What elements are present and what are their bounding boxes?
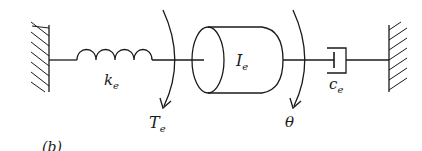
right-wall <box>389 22 407 92</box>
torsional-system-diagram: ke Ie ce Te θ (b) <box>0 0 422 151</box>
spring <box>77 50 152 61</box>
angle-label: θ <box>285 113 294 131</box>
inertia-label: Ie <box>235 51 248 72</box>
torque-arrow <box>160 10 175 108</box>
left-wall <box>31 22 49 92</box>
torque-label: Te <box>149 113 166 134</box>
angle-arrow <box>290 10 305 108</box>
figure-label: (b) <box>42 139 62 151</box>
spring-label: ke <box>104 71 119 91</box>
damper-label: ce <box>329 75 343 95</box>
